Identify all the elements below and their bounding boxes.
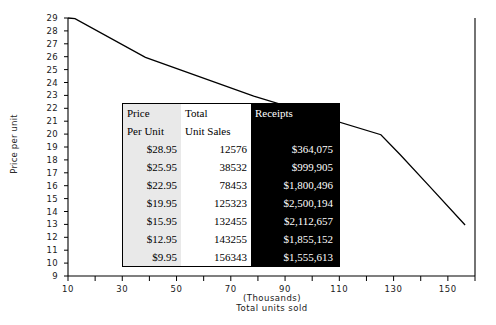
y-tick-label: 21 [32, 116, 58, 126]
price-cell: $15.95 [123, 212, 182, 230]
y-tickmarks [64, 18, 68, 276]
table-row: $9.95156343$1,555,613 [123, 248, 340, 267]
unit-sales-cell: 125323 [181, 194, 251, 212]
x-axis-units-caption: (Thousands) [162, 293, 382, 303]
y-tick-label: 16 [32, 181, 58, 191]
receipts-cell: $364,075 [251, 140, 340, 158]
x-tick-label: 10 [48, 284, 88, 294]
table-header-cell: Receipts [251, 104, 340, 123]
y-tick-label: 24 [32, 78, 58, 88]
unit-sales-cell: 156343 [181, 248, 251, 267]
price-cell: $12.95 [123, 230, 182, 248]
table-header-cell: Per Unit [123, 122, 182, 140]
table-row: $12.95143255$1,855,152 [123, 230, 340, 248]
y-tick-label: 25 [32, 65, 58, 75]
table-row: $22.9578453$1,800,496 [123, 176, 340, 194]
unit-sales-cell: 143255 [181, 230, 251, 248]
price-cell: $19.95 [123, 194, 182, 212]
x-tick-label: 30 [102, 284, 142, 294]
y-tick-label: 27 [32, 39, 58, 49]
y-tick-label: 23 [32, 90, 58, 100]
table-header-cell [251, 122, 340, 140]
table-row: $25.9538532$999,905 [123, 158, 340, 176]
receipts-cell: $999,905 [251, 158, 340, 176]
table-header-row-2: Per UnitUnit Sales [123, 122, 340, 140]
data-table: PriceTotalReceiptsPer UnitUnit Sales$28.… [122, 103, 340, 267]
y-tick-label: 20 [32, 129, 58, 139]
table-header-cell: Total [181, 104, 251, 123]
price-cell: $22.95 [123, 176, 182, 194]
table-header-cell: Price [123, 104, 182, 123]
table-row: $15.95132455$2,112,657 [123, 212, 340, 230]
price-cell: $28.95 [123, 140, 182, 158]
table-header-row-1: PriceTotalReceipts [123, 104, 340, 123]
unit-sales-cell: 12576 [181, 140, 251, 158]
receipts-cell: $1,555,613 [251, 248, 340, 267]
receipts-cell: $1,800,496 [251, 176, 340, 194]
y-tick-label: 11 [32, 245, 58, 255]
y-tick-label: 12 [32, 232, 58, 242]
y-tick-label: 14 [32, 207, 58, 217]
y-tick-label: 29 [32, 13, 58, 23]
price-cell: $25.95 [123, 158, 182, 176]
unit-sales-cell: 132455 [181, 212, 251, 230]
y-tick-label: 10 [32, 258, 58, 268]
price-cell: $9.95 [123, 248, 182, 267]
y-tick-label: 13 [32, 219, 58, 229]
receipts-cell: $2,112,657 [251, 212, 340, 230]
y-tick-label: 22 [32, 103, 58, 113]
unit-sales-cell: 38532 [181, 158, 251, 176]
table-row: $28.9512576$364,075 [123, 140, 340, 158]
table-row: $19.95125323$2,500,194 [123, 194, 340, 212]
table-header-cell: Unit Sales [181, 122, 251, 140]
receipts-cell: $1,855,152 [251, 230, 340, 248]
y-tick-label: 18 [32, 155, 58, 165]
x-tick-label: 150 [428, 284, 468, 294]
y-tick-label: 26 [32, 52, 58, 62]
receipts-cell: $2,500,194 [251, 194, 340, 212]
x-axis-title: Total units sold [162, 303, 382, 313]
y-tick-label: 17 [32, 168, 58, 178]
y-tick-label: 9 [32, 271, 58, 281]
y-axis-title: Price per unit [9, 99, 19, 189]
y-tick-label: 28 [32, 26, 58, 36]
y-tick-label: 15 [32, 194, 58, 204]
unit-sales-cell: 78453 [181, 176, 251, 194]
y-tick-label: 19 [32, 142, 58, 152]
x-tickmarks [68, 276, 475, 281]
chart-container: 9101112131415161718192021222324252627282… [0, 0, 496, 325]
